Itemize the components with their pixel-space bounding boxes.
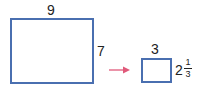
arrow-icon [108, 65, 132, 75]
small-width-label: 3 [151, 42, 159, 56]
small-rectangle [141, 58, 172, 83]
large-height-label: 7 [97, 44, 105, 58]
large-width-label: 9 [47, 3, 55, 17]
small-height-denominator: 3 [184, 70, 192, 79]
small-height-numerator: 1 [184, 58, 192, 67]
large-rectangle [10, 18, 94, 84]
small-height-whole: 2 [175, 63, 183, 77]
